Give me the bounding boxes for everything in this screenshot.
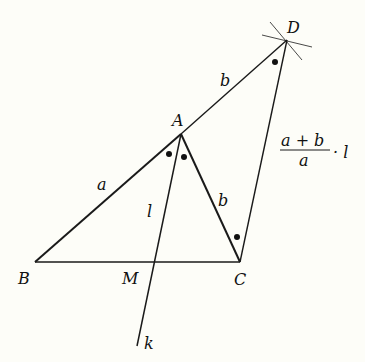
segment-ac xyxy=(181,134,240,262)
angle-dot-adc xyxy=(272,59,278,65)
label-cd-denominator: a xyxy=(299,151,309,170)
label-side-ab: a xyxy=(97,175,107,194)
label-point-a: A xyxy=(170,111,184,130)
angle-dot-acd xyxy=(234,234,240,240)
label-point-b: B xyxy=(17,269,30,288)
label-point-c: C xyxy=(234,270,246,289)
segment-cd xyxy=(240,40,287,262)
angle-dot-bam xyxy=(166,151,172,157)
label-side-ad: b xyxy=(220,71,230,90)
label-cd-numerator: a + b xyxy=(281,131,324,150)
segment-ad xyxy=(181,40,287,134)
label-segment-am: l xyxy=(147,202,152,221)
label-line-k: k xyxy=(144,334,154,353)
label-point-m: M xyxy=(121,269,139,288)
label-side-ac: b xyxy=(218,191,228,210)
label-cd-multiplier: · l xyxy=(333,143,348,162)
label-point-d: D xyxy=(286,18,300,37)
geometry-diagram: A B C D M k a b b l a + b a · l xyxy=(0,0,365,362)
angle-dot-mac xyxy=(181,154,187,160)
